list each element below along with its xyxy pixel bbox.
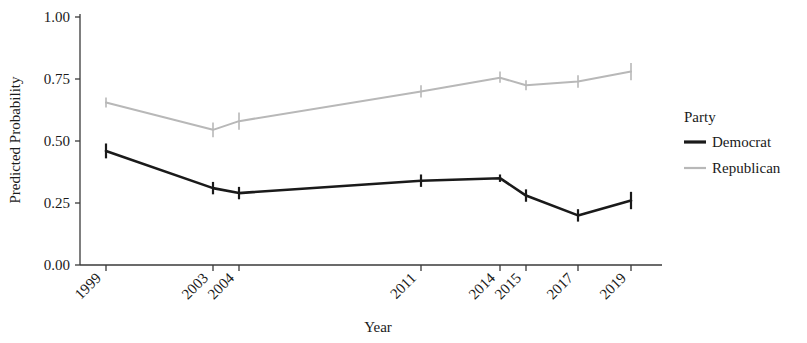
legend-label-republican: Republican <box>712 160 781 176</box>
y-axis-title: Predicted Probability <box>7 76 23 204</box>
y-tick-label: 1.00 <box>44 9 70 25</box>
chart-canvas: 0.000.250.500.751.00 1999200320042011201… <box>0 0 807 343</box>
y-tick-label: 0.25 <box>44 195 70 211</box>
chart-figure: 0.000.250.500.751.00 1999200320042011201… <box>0 0 807 343</box>
legend-title: Party <box>684 109 716 125</box>
x-axis-title: Year <box>364 319 392 335</box>
legend-label-democrat: Democrat <box>712 134 772 150</box>
y-tick-label: 0.00 <box>44 257 70 273</box>
y-tick-label: 0.75 <box>44 71 70 87</box>
y-tick-label: 0.50 <box>44 133 70 149</box>
